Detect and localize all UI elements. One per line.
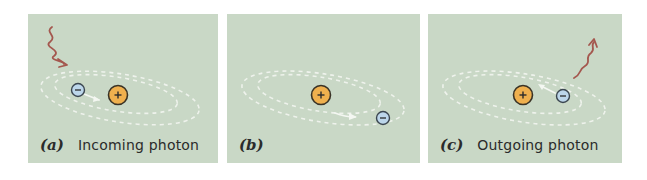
panel-b: (b) <box>227 14 420 163</box>
electron-motion-arrow-icon <box>538 84 555 93</box>
electron-icon <box>72 84 85 97</box>
panel-b-caption: (b) <box>239 136 274 154</box>
electron-icon <box>377 112 390 125</box>
electron-motion-arrow-icon <box>84 94 100 102</box>
panel-c-label: Outgoing photon <box>477 137 598 153</box>
panel-a-caption: (a) Incoming photon <box>40 136 199 154</box>
nucleus-icon <box>109 86 128 105</box>
nucleus-icon <box>514 86 533 105</box>
panel-a-letter: (a) <box>40 136 64 154</box>
panel-a: (a) Incoming photon <box>28 14 218 163</box>
panel-c-caption: (c) Outgoing photon <box>440 136 599 154</box>
panel-a-label: Incoming photon <box>78 137 199 153</box>
outgoing-photon-icon <box>574 39 597 78</box>
panel-c-letter: (c) <box>440 136 463 154</box>
panel-b-letter: (b) <box>239 136 264 154</box>
electron-motion-arrow-icon <box>335 113 357 120</box>
panel-c: (c) Outgoing photon <box>428 14 622 163</box>
incoming-photon-icon <box>48 27 67 67</box>
electron-icon <box>557 90 570 103</box>
nucleus-icon <box>312 86 331 105</box>
